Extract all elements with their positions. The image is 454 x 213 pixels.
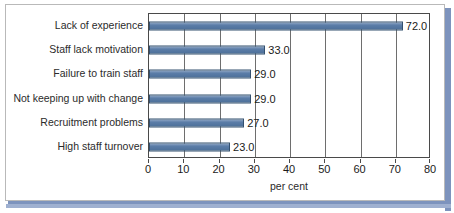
bar-row: 29.0 (149, 87, 429, 111)
bar-value-label: 23.0 (233, 141, 254, 153)
bar[interactable] (149, 142, 230, 151)
bar[interactable] (149, 22, 403, 31)
x-tick-label: 50 (318, 163, 330, 175)
x-tick-label: 80 (424, 163, 436, 175)
bar[interactable] (149, 46, 265, 55)
bar-value-label: 72.0 (406, 20, 427, 32)
bar-row: 27.0 (149, 111, 429, 135)
x-axis: 01020304050607080 (148, 159, 430, 177)
x-tick-label: 60 (353, 163, 365, 175)
x-tick-label: 20 (212, 163, 224, 175)
category-label-text: Not keeping up with change (13, 92, 143, 104)
x-axis-title: per cent (148, 180, 430, 192)
category-label-4: Not keeping up with change (0, 86, 143, 110)
category-label-text: Recruitment problems (40, 116, 143, 128)
x-tick-label: 10 (177, 163, 189, 175)
chart-figure: Lack of experienceStaff lack motivationF… (0, 0, 454, 213)
bar[interactable] (149, 70, 251, 79)
bar-row: 33.0 (149, 38, 429, 62)
bar-value-label: 29.0 (254, 68, 275, 80)
bar-value-label: 27.0 (247, 117, 268, 129)
category-label-2: Staff lack motivation (0, 37, 143, 61)
bar-value-label: 29.0 (254, 93, 275, 105)
bar-row: 29.0 (149, 62, 429, 86)
x-tick-label: 70 (389, 163, 401, 175)
x-tick-label: 0 (145, 163, 151, 175)
bar[interactable] (149, 118, 244, 127)
bar-value-label: 33.0 (268, 44, 289, 56)
plot-area: 72.033.029.029.027.023.0 (148, 13, 430, 158)
category-label-text: Failure to train staff (53, 67, 143, 79)
category-label-text: Staff lack motivation (49, 43, 143, 55)
bar[interactable] (149, 94, 251, 103)
category-label-text: Lack of experience (55, 19, 143, 31)
category-label-3: Failure to train staff (0, 61, 143, 85)
category-label-5: Recruitment problems (0, 110, 143, 134)
x-tick-label: 30 (248, 163, 260, 175)
bar-row: 72.0 (149, 14, 429, 38)
x-tick-label: 40 (283, 163, 295, 175)
figure-shadow-bottom-soft (6, 204, 451, 208)
category-label-6: High staff turnover (0, 134, 143, 158)
bar-row: 23.0 (149, 135, 429, 159)
category-label-1: Lack of experience (0, 13, 143, 37)
category-label-text: High staff turnover (57, 140, 143, 152)
